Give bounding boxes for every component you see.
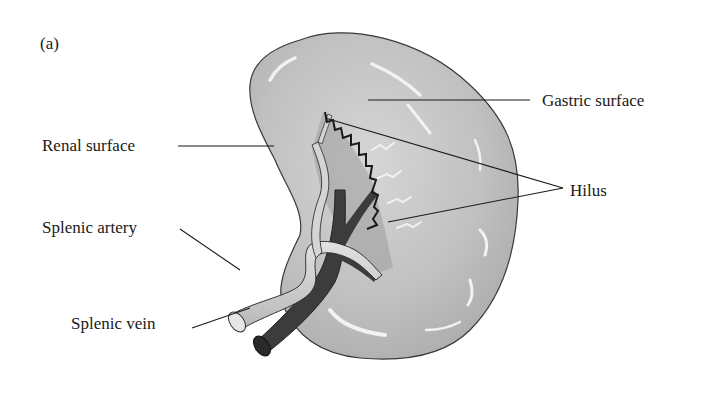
leader-splenic-artery	[180, 229, 240, 270]
spleen-illustration	[0, 0, 725, 404]
panel-label: (a)	[40, 35, 59, 52]
label-renal-surface: Renal surface	[42, 137, 135, 154]
label-splenic-vein: Splenic vein	[71, 315, 156, 332]
label-splenic-artery: Splenic artery	[42, 219, 137, 236]
label-gastric-surface: Gastric surface	[542, 92, 644, 109]
label-hilus: Hilus	[570, 182, 607, 199]
spleen-diagram: (a) Renal surface Gastric surface Hilus …	[0, 0, 725, 404]
